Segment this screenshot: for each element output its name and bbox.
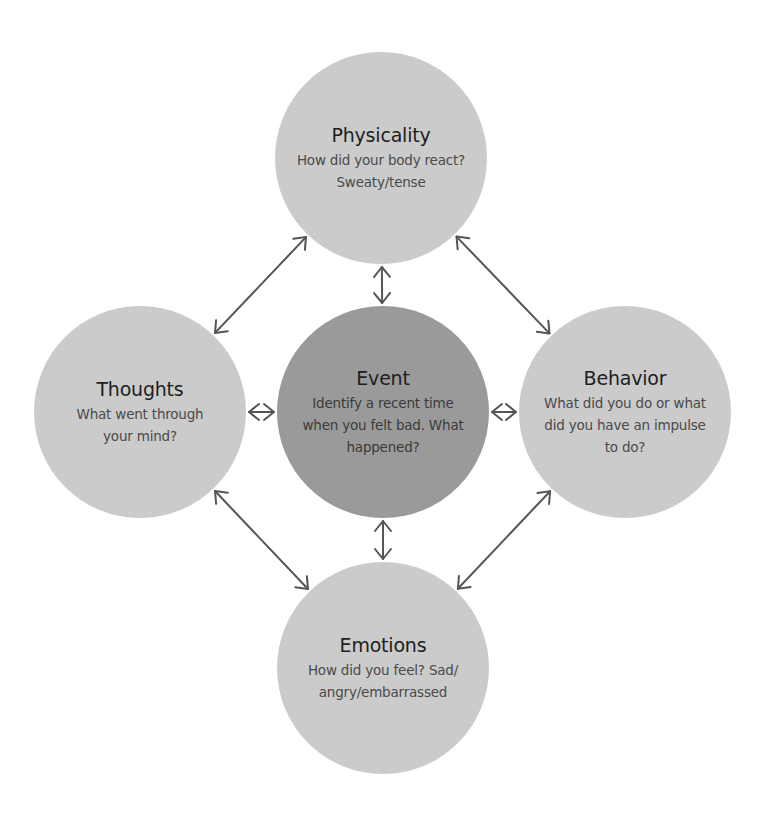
arrowhead [537, 321, 550, 334]
node-title: Behavior [584, 366, 667, 390]
node-description: Identify a recent time when you felt bad… [302, 392, 463, 458]
node-behavior: Behavior What did you do or what did you… [519, 306, 731, 518]
node-description: How did you feel? Sad/ angry/embarrassed [308, 659, 458, 703]
arrowhead [374, 293, 390, 303]
arrowhead [264, 404, 274, 420]
arrowhead [293, 237, 306, 250]
double-arrow-thoughts-physicality [215, 237, 306, 333]
node-description: What did you do or what did you have an … [544, 392, 706, 458]
arrowhead [457, 237, 470, 250]
node-title: Physicality [331, 123, 430, 147]
node-thoughts: Thoughts What went through your mind? [34, 306, 246, 518]
arrow-shaft [215, 237, 306, 333]
arrowhead [375, 549, 391, 559]
double-arrow-event-behavior [492, 404, 516, 420]
arrowhead [374, 267, 390, 277]
arrow-shaft [458, 491, 550, 589]
arrowhead [215, 491, 228, 504]
node-physicality: Physicality How did your body react? Swe… [275, 52, 487, 264]
arrow-shaft [215, 491, 308, 589]
double-arrow-thoughts-event [249, 404, 274, 420]
cbt-cycle-diagram: Physicality How did your body react? Swe… [0, 0, 764, 835]
arrowhead [506, 404, 516, 420]
arrow-shaft [457, 237, 550, 334]
node-title: Emotions [340, 633, 427, 657]
arrowhead [249, 404, 259, 420]
double-arrow-physicality-behavior [457, 237, 550, 334]
double-arrow-emotions-behavior [458, 491, 550, 589]
arrowhead [537, 491, 550, 504]
node-event: Event Identify a recent time when you fe… [277, 306, 489, 518]
node-description: What went through your mind? [77, 403, 204, 447]
arrowhead [492, 404, 502, 420]
node-title: Thoughts [96, 377, 183, 401]
double-arrow-physicality-event [374, 267, 390, 303]
arrowhead [215, 320, 228, 333]
arrowhead [458, 576, 471, 589]
node-description: How did your body react? Sweaty/tense [297, 149, 465, 193]
arrowhead [375, 521, 391, 531]
double-arrow-thoughts-emotions [215, 491, 308, 589]
node-title: Event [356, 366, 409, 390]
double-arrow-event-emotions [375, 521, 391, 559]
arrowhead [295, 576, 308, 589]
node-emotions: Emotions How did you feel? Sad/ angry/em… [277, 562, 489, 774]
